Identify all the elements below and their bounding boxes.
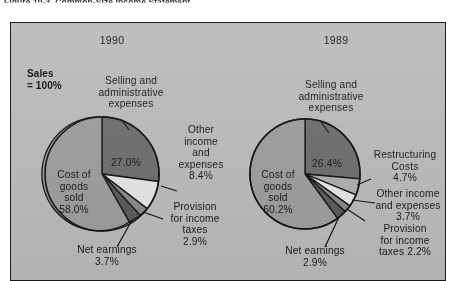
sa-line2-1990: administrative <box>99 87 164 98</box>
cogs-line1-1990: Cost of <box>57 169 90 180</box>
leader-provision-taxes-1989 <box>347 209 365 221</box>
oi-line1-1990: Other <box>188 124 214 135</box>
figure-frame: 1990 Sales = 100% 27.0% <box>10 22 446 281</box>
rc-line1-1989: Restructuring <box>374 149 437 160</box>
leader-provision-taxes-1990 <box>143 212 163 219</box>
cogs-line1-1989: Cost of <box>261 169 294 180</box>
ne-line1-1990: Net earnings <box>77 244 137 255</box>
label-provision-taxes-1989: Provision for income taxes 2.2% <box>366 223 444 258</box>
oi-line2-1990: income <box>184 136 218 147</box>
ne-value-1989: 2.9% <box>303 257 327 268</box>
slice-selling-admin-1990 <box>102 117 159 181</box>
pt-line2-1989: for income <box>380 235 429 246</box>
label-cost-of-goods-1989: Cost of goods sold 60.2% <box>249 169 307 215</box>
figure-caption: Figure 10-3. Common-Size Income Statemen… <box>4 0 190 7</box>
label-selling-admin-1990: Selling and administrative expenses <box>79 75 183 110</box>
value-selling-admin-1989: 26.4% <box>312 158 342 169</box>
label-selling-admin-1989: Selling and administrative expenses <box>279 79 383 114</box>
pie-panel-1990: 1990 Sales = 100% 27.0% <box>11 23 229 280</box>
sa-line2-1989: administrative <box>299 91 364 102</box>
oi-line3-1990: and <box>192 147 209 158</box>
label-restructuring-1989: Restructuring Costs 4.7% <box>363 149 446 184</box>
value-selling-admin-1990: 27.0% <box>111 157 141 168</box>
rc-value-1989: 4.7% <box>393 172 417 183</box>
pt-line3-1990: taxes <box>182 224 207 235</box>
cogs-value-1990: 58.0% <box>59 204 89 215</box>
oi-line4-1990: expenses <box>179 159 224 170</box>
sa-line3-1990: expenses <box>109 98 154 109</box>
sa-line1-1989: Selling and <box>305 79 357 90</box>
oi-value-1990: 8.4% <box>189 170 213 181</box>
pie-panel-1989: 1989 26.4% Cost of goods <box>229 23 446 280</box>
sa-line1-1990: Selling and <box>105 75 157 86</box>
pt-line1-1989: Provision <box>383 223 426 234</box>
pt-line3-1989: taxes 2.2% <box>379 246 431 257</box>
ne-value-1990: 3.7% <box>95 256 119 267</box>
oi-line1-1989: Other income <box>377 188 440 199</box>
oi-line2-1989: and expenses <box>375 200 440 211</box>
label-other-income-1989: Other income and expenses 3.7% <box>369 188 446 223</box>
cogs-line2-1990: goods <box>60 181 89 192</box>
ne-line1-1989: Net earnings <box>285 245 345 256</box>
cogs-line3-1989: sold <box>268 192 287 203</box>
oi-value-1989: 3.7% <box>396 211 420 222</box>
leader-other-income-1990 <box>161 186 177 191</box>
label-other-income-1990: Other income and expenses 8.4% <box>172 124 230 182</box>
cogs-line3-1990: sold <box>64 192 83 203</box>
label-cost-of-goods-1990: Cost of goods sold 58.0% <box>44 169 104 215</box>
pt-value-1990: 2.9% <box>183 236 207 247</box>
cogs-value-1989: 60.2% <box>263 204 293 215</box>
label-net-earnings-1989: Net earnings 2.9% <box>267 245 363 268</box>
pt-line1-1990: Provision <box>173 201 216 212</box>
label-provision-taxes-1990: Provision for income taxes 2.9% <box>161 201 229 247</box>
cogs-line2-1989: goods <box>264 181 293 192</box>
sa-line3-1989: expenses <box>309 102 354 113</box>
label-net-earnings-1990: Net earnings 3.7% <box>59 244 155 267</box>
rc-line2-1989: Costs <box>392 161 419 172</box>
pt-line2-1990: for income <box>170 213 219 224</box>
slice-selling-admin-1989 <box>305 119 360 179</box>
